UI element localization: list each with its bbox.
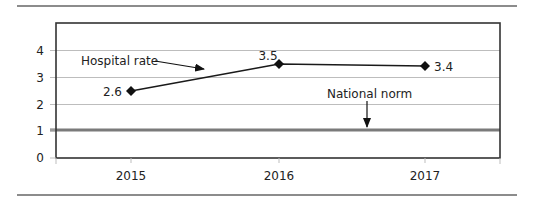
national-norm-annotation: National norm bbox=[327, 87, 412, 101]
hospital-rate-annotation: Hospital rate bbox=[81, 54, 158, 68]
data-label-2016: 3.5 bbox=[258, 49, 277, 63]
plot-frame bbox=[56, 23, 500, 158]
line-chart: 4 3 2 1 0 2015 2016 2017 2.6 3.5 3.4 Hos… bbox=[0, 0, 534, 202]
x-axis-labels: 2015 2016 2017 bbox=[116, 169, 441, 183]
data-label-2015: 2.6 bbox=[103, 85, 122, 99]
y-tick-4: 4 bbox=[36, 44, 44, 58]
y-tick-0: 0 bbox=[36, 151, 44, 165]
y-tick-3: 3 bbox=[36, 71, 44, 85]
diamond-marker-2015 bbox=[126, 86, 136, 96]
y-axis-labels: 4 3 2 1 0 bbox=[36, 44, 44, 165]
x-label-2015: 2015 bbox=[116, 169, 147, 183]
data-label-2017: 3.4 bbox=[434, 60, 453, 74]
x-label-2016: 2016 bbox=[264, 169, 295, 183]
x-ticks bbox=[56, 158, 500, 164]
hospital-rate-arrow-icon bbox=[155, 61, 204, 69]
x-label-2017: 2017 bbox=[410, 169, 441, 183]
y-tick-2: 2 bbox=[36, 98, 44, 112]
y-tick-1: 1 bbox=[36, 124, 44, 138]
diamond-marker-2017 bbox=[420, 61, 430, 71]
